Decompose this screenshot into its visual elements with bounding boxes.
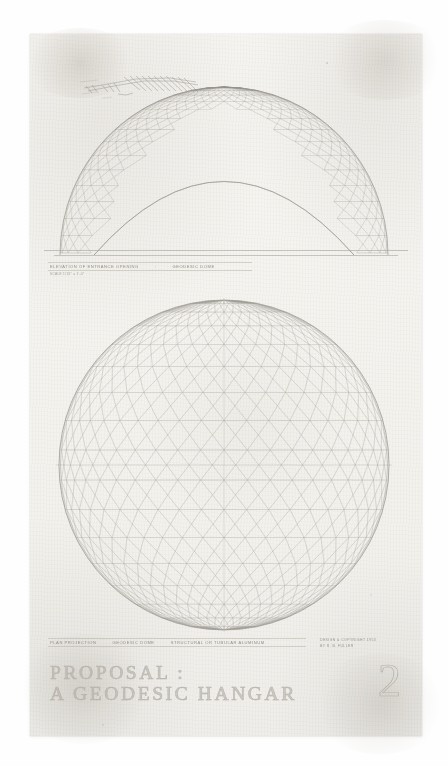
lower-drawing-caption: PLAN PROJECTIONGEODESIC DOMESTRUCTURAL O… (50, 640, 281, 645)
upper-drawing-scale-note: SCALE 1/16" = 1'-0" (50, 272, 84, 276)
paper-speckle (102, 724, 104, 726)
dome-outline (60, 87, 388, 255)
caption-rule-bottom (48, 270, 252, 271)
page-title-line-1: PROPOSAL : (50, 662, 297, 683)
entrance-opening-arch (94, 182, 354, 256)
upper-drawing-dome-elevation (30, 34, 422, 736)
upper-drawing-caption: ELEVATION OF ENTRANCE OPENING:GEODESIC D… (50, 264, 231, 269)
lower-drawing-subnote (50, 648, 51, 652)
caption-segment: GEODESIC DOME (173, 264, 215, 269)
caption-segment: : (155, 264, 157, 269)
caption-segment: ELEVATION OF ENTRANCE OPENING (50, 264, 139, 269)
copyright-credit: DESIGN & COPYRIGHT 1953 BY R. B. FULLER (320, 638, 376, 649)
upper-divider-rule (44, 250, 408, 251)
entrance-arch-edge (94, 182, 354, 256)
paper-speckle (326, 62, 328, 64)
lower-caption-rule-bottom (48, 646, 306, 647)
sheet-number: 2 (378, 658, 401, 704)
caption-segment: PLAN PROJECTION (50, 640, 96, 645)
drafting-sheet: ELEVATION OF ENTRANCE OPENING:GEODESIC D… (30, 34, 422, 736)
drawing-canvas: ELEVATION OF ENTRANCE OPENING:GEODESIC D… (0, 0, 448, 766)
credit-line-2: BY R. B. FULLER (320, 644, 376, 650)
dome-mesh-lines (60, 87, 388, 253)
caption-segment: STRUCTURAL OR TUBULAR ALUMINUM (171, 640, 265, 645)
credit-line-1: DESIGN & COPYRIGHT 1953 (320, 638, 376, 644)
page-title-line-2: A GEODESIC HANGAR (50, 683, 297, 704)
title-block: PROPOSAL : A GEODESIC HANGAR (50, 662, 297, 704)
paper-speckle (370, 594, 372, 596)
caption-segment: GEODESIC DOME (112, 640, 154, 645)
